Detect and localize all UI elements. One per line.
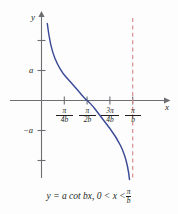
x-tick-label-pi-over-4b: π 4b <box>56 107 73 123</box>
y-tick-label-a: a <box>29 66 33 75</box>
y-axis-label: y <box>31 13 35 22</box>
fraction-denominator: b <box>126 196 132 205</box>
fraction-numerator: π <box>79 107 96 115</box>
fraction-denominator: 4b <box>101 115 119 124</box>
x-tick-label-pi-over-2b: π 2b <box>79 107 96 123</box>
cotangent-graph-figure: y x a −a π 4b π 2b 3π 4b π b y = a cot b… <box>0 0 178 214</box>
caption-fraction: πb <box>126 188 132 204</box>
caption-text: y = a cot bx, 0 < x < <box>47 191 126 201</box>
fraction-numerator: π <box>56 107 73 115</box>
x-axis-label: x <box>165 103 169 112</box>
fraction-denominator: 2b <box>79 115 96 124</box>
x-tick-label-pi-over-b: π b <box>125 107 141 123</box>
figure-caption: y = a cot bx, 0 < x <πb <box>0 188 178 204</box>
fraction-numerator: 3π <box>101 107 119 115</box>
cotangent-curve <box>47 24 129 180</box>
fraction-numerator: π <box>125 107 141 115</box>
y-tick-label-negative-a: −a <box>23 126 33 135</box>
x-tick-label-3pi-over-4b: 3π 4b <box>101 107 119 123</box>
y-axis <box>38 11 44 178</box>
fraction-denominator: b <box>125 115 141 124</box>
fraction-denominator: 4b <box>56 115 73 124</box>
fraction-numerator: π <box>126 188 132 196</box>
